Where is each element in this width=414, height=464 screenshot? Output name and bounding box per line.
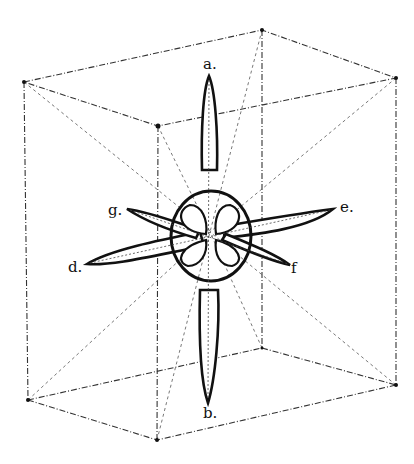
label-a: a. xyxy=(203,57,217,72)
label-b: b. xyxy=(203,406,217,421)
ray-a xyxy=(202,76,217,170)
label-f: f xyxy=(291,261,297,276)
ray-b xyxy=(200,290,219,403)
spicule xyxy=(87,76,333,403)
figure-canvas: a. b. d. e. f g. xyxy=(0,0,414,464)
label-g: g. xyxy=(108,203,122,218)
label-d: d. xyxy=(68,260,82,275)
label-e: e. xyxy=(340,200,354,215)
